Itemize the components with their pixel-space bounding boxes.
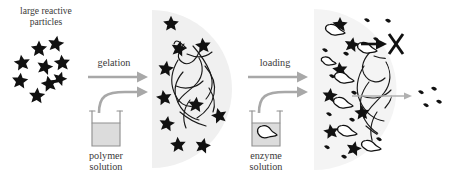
loading-arrow-curved [259, 87, 308, 114]
escaped-fragment [436, 100, 442, 104]
gelation-arrow-curved [99, 87, 148, 114]
particle-star [53, 54, 70, 71]
particle-star [51, 69, 69, 86]
particle-star [31, 41, 47, 56]
figure-canvas: large reactive particles gelation polyme… [0, 0, 452, 179]
loading-step-label: loading [246, 57, 304, 68]
loading-arrow-straight [248, 72, 308, 83]
escaped-fragment-cluster [418, 87, 442, 107]
gel-hemisphere [152, 10, 232, 168]
particle-star [47, 34, 66, 52]
gelation-step-label: gelation [85, 57, 143, 68]
enzyme-solution-beaker [250, 111, 283, 146]
beaker-liquid [92, 123, 120, 146]
escaped-fragment [431, 87, 437, 91]
polymer-solution-label: polymer solution [78, 150, 134, 173]
escaped-fragment [418, 90, 424, 94]
particles-title-label: large reactive particles [4, 6, 88, 27]
polymer-solution-beaker [90, 111, 123, 146]
enzyme-solution-label: enzyme solution [238, 150, 294, 173]
degradation-fragment [364, 18, 370, 22]
hydrogel-body [152, 10, 232, 168]
particle-star [35, 57, 54, 76]
particle-star [11, 72, 29, 89]
particle-star [13, 54, 31, 71]
escaped-fragment [423, 103, 429, 107]
gelation-arrow-straight [88, 72, 148, 83]
particle-cluster [11, 34, 71, 103]
degradation-fragment [385, 19, 391, 23]
particle-star [28, 87, 45, 103]
blocked-escape-x-mark [389, 34, 403, 54]
